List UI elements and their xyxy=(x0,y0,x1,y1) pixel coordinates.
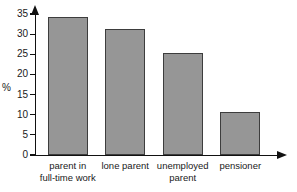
plot-area xyxy=(36,14,266,155)
arrow-right-icon xyxy=(277,151,287,159)
y-axis-tick-label: 5 xyxy=(2,130,28,140)
y-axis-tick-label: 15 xyxy=(2,90,28,100)
x-axis-category-label: pensioner xyxy=(206,160,274,172)
bar xyxy=(220,112,260,155)
x-axis-line xyxy=(35,155,278,156)
y-axis-tick-label: 20 xyxy=(2,69,28,79)
y-axis-tick-label: 30 xyxy=(2,29,28,39)
bar-chart: % 05101520253035 parent in full-time wor… xyxy=(0,0,297,192)
y-axis-tick-label: 35 xyxy=(2,9,28,19)
y-axis-tick-label: 0 xyxy=(2,150,28,160)
bar xyxy=(105,29,145,155)
bar xyxy=(48,17,88,155)
y-axis-tick-label: 10 xyxy=(2,110,28,120)
bar xyxy=(163,53,203,155)
y-axis-tick-label: 25 xyxy=(2,49,28,59)
